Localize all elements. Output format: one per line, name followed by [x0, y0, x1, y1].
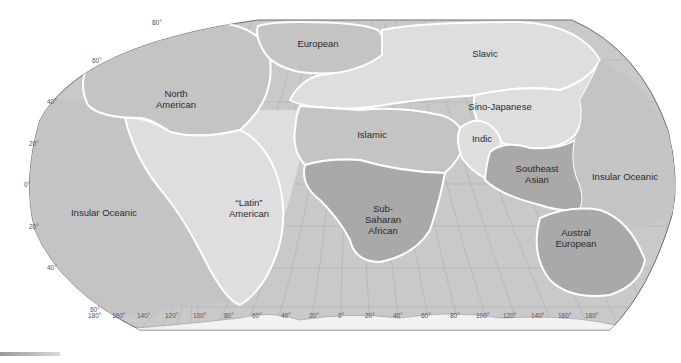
- svg-text:20°: 20°: [29, 140, 39, 147]
- svg-text:180°: 180°: [88, 312, 102, 319]
- svg-text:100°: 100°: [476, 312, 490, 319]
- svg-text:40°: 40°: [47, 98, 57, 105]
- svg-text:60°: 60°: [252, 312, 262, 319]
- cultural-realms-map: 80° 60° 40° 20° 0° 20° 40° 60° 180° 160°…: [0, 0, 681, 363]
- svg-text:100°: 100°: [193, 312, 207, 319]
- svg-text:40°: 40°: [281, 312, 291, 319]
- svg-text:0°: 0°: [338, 312, 345, 319]
- svg-text:20°: 20°: [365, 312, 375, 319]
- svg-text:160°: 160°: [558, 312, 572, 319]
- label-islamic: Islamic: [357, 129, 387, 140]
- svg-text:140°: 140°: [137, 312, 151, 319]
- svg-text:160°: 160°: [112, 312, 126, 319]
- svg-text:80°: 80°: [450, 312, 460, 319]
- label-insular-oceanic-west: Insular Oceanic: [71, 207, 137, 218]
- svg-text:180°: 180°: [585, 312, 599, 319]
- svg-text:0°: 0°: [24, 181, 31, 188]
- region-insular-oceanic-east[interactable]: [573, 60, 675, 230]
- label-slavic: Slavic: [472, 48, 498, 59]
- label-sino-japanese: Sino-Japanese: [468, 101, 531, 112]
- label-indic: Indic: [472, 133, 492, 144]
- label-european: European: [297, 38, 338, 49]
- svg-text:60°: 60°: [421, 312, 431, 319]
- svg-text:60°: 60°: [92, 57, 102, 64]
- svg-text:120°: 120°: [165, 312, 179, 319]
- svg-text:20°: 20°: [309, 312, 319, 319]
- label-insular-oceanic-east: Insular Oceanic: [592, 171, 658, 182]
- svg-text:40°: 40°: [393, 312, 403, 319]
- svg-text:20°: 20°: [29, 223, 39, 230]
- decorative-bar: [0, 352, 60, 356]
- svg-text:80°: 80°: [224, 312, 234, 319]
- svg-text:120°: 120°: [503, 312, 517, 319]
- svg-text:140°: 140°: [531, 312, 545, 319]
- label-austral-european: AustralEuropean: [555, 227, 596, 249]
- svg-text:40°: 40°: [47, 264, 57, 271]
- svg-text:80°: 80°: [152, 19, 162, 26]
